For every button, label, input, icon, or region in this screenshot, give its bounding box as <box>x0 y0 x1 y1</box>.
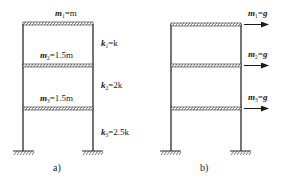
frame-b: m1=g m2=g m3=g b) <box>160 8 268 174</box>
mass-label-3: m3=1.5m <box>40 93 73 104</box>
mass-label-2: m2=1.5m <box>40 50 73 61</box>
frame-b-right-support <box>230 151 251 155</box>
force-label-3: m3=g <box>248 92 268 103</box>
stiffness-label-1: k1=k <box>101 38 118 49</box>
frame-b-floor-3 <box>171 107 241 110</box>
frame-b-floor-2 <box>171 64 241 67</box>
stiffness-label-3: k3=2.5k <box>101 127 130 138</box>
caption-b: b) <box>200 162 208 174</box>
diagram-canvas: m1=m m2=1.5m m3=1.5m k1=k k2=2k k3=2.5k … <box>0 0 281 185</box>
force-label-1: m1=g <box>248 8 268 19</box>
frame-b-left-support <box>160 151 181 155</box>
frame-a-floor-3 <box>23 107 93 110</box>
force-label-2: m2=g <box>248 49 268 60</box>
frame-b-floor-1 <box>171 23 241 26</box>
frame-a-right-support <box>82 151 103 155</box>
frame-a-left-support <box>13 151 34 155</box>
mass-label-1: m1=m <box>55 8 77 19</box>
frame-a-floor-2 <box>23 64 93 67</box>
frame-a: m1=m m2=1.5m m3=1.5m k1=k k2=2k k3=2.5k … <box>13 8 130 174</box>
frame-diagrams: m1=m m2=1.5m m3=1.5m k1=k k2=2k k3=2.5k … <box>0 0 281 185</box>
caption-a: a) <box>53 162 61 174</box>
stiffness-label-2: k2=2k <box>101 80 123 91</box>
frame-a-floor-1 <box>23 22 93 25</box>
